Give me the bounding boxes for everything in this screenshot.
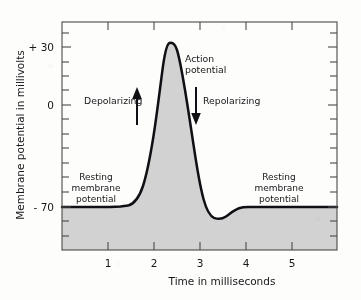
- x-tick-label-3: 3: [197, 257, 204, 269]
- x-tick-label-5: 5: [289, 257, 296, 269]
- annotation-resting-left-line3: potential: [76, 194, 116, 204]
- x-tick-label-4: 4: [243, 257, 250, 269]
- annotation-resting-left-line1: Resting: [79, 172, 113, 182]
- y-tick-label-minus70: - 70: [34, 201, 55, 213]
- annotation-action-potential-line2: potential: [185, 64, 226, 75]
- annotation-resting-right-line3: potential: [259, 194, 299, 204]
- annotation-resting-right-line1: Resting: [262, 172, 296, 182]
- x-tick-label-2: 2: [151, 257, 158, 269]
- depolarizing-arrow-up-icon: [132, 87, 142, 125]
- annotation-action-potential-line1: Action: [185, 53, 214, 64]
- annotation-resting-right-line2: membrane: [254, 183, 304, 193]
- y-tick-label-zero: 0: [47, 99, 54, 111]
- action-potential-chart: + 30 0 - 70 1 2 3 4 5 Time in millisecon…: [0, 0, 361, 300]
- y-axis-ticks: [62, 33, 71, 236]
- x-axis-title: Time in milliseconds: [168, 275, 276, 287]
- y-tick-label-plus30: + 30: [29, 41, 55, 53]
- annotation-resting-left-line2: membrane: [71, 183, 121, 193]
- annotation-repolarizing: Repolarizing: [203, 95, 260, 106]
- y-axis-title: Membrane potential in millivolts: [14, 50, 26, 220]
- action-potential-figure: + 30 0 - 70 1 2 3 4 5 Time in millisecon…: [0, 0, 361, 300]
- right-axis-ticks: [328, 33, 337, 236]
- repolarizing-arrow-down-icon: [191, 87, 201, 125]
- top-axis-ticks: [108, 22, 292, 30]
- x-tick-label-1: 1: [105, 257, 112, 269]
